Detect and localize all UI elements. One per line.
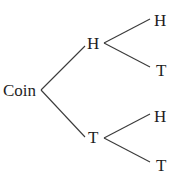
root-label-coin: Coin: [3, 81, 37, 100]
edge-root-to-heads: [41, 46, 85, 90]
edge-heads-to-heads: [104, 19, 150, 43]
leaf-heads-tails: T: [156, 61, 167, 80]
node-first-tails: T: [88, 128, 99, 147]
node-first-heads: H: [87, 34, 99, 53]
leaf-tails-heads: H: [154, 107, 166, 126]
edge-heads-to-tails: [104, 43, 150, 67]
edge-root-to-tails: [41, 90, 85, 137]
coin-tree-diagram: Coin H T H T H T: [0, 0, 183, 176]
leaf-tails-tails: T: [156, 156, 167, 175]
edge-tails-to-heads: [104, 114, 150, 138]
leaf-heads-heads: H: [154, 11, 166, 30]
edge-tails-to-tails: [104, 138, 150, 162]
